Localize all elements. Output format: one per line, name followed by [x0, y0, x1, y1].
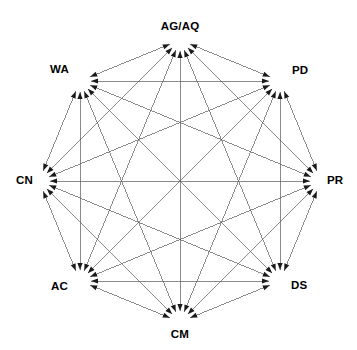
edge-arrowhead [262, 72, 269, 77]
edge-arrowhead [184, 304, 189, 311]
edge-arrowhead [284, 91, 289, 98]
edge-arrowhead [177, 304, 182, 311]
graph-edge [43, 191, 76, 271]
edge-arrowhead [271, 263, 276, 270]
edge-arrowhead [49, 172, 56, 177]
edge-arrowhead [90, 272, 97, 277]
graph-edge [43, 91, 76, 171]
edge-arrowhead [91, 278, 98, 283]
node-label-agaq[interactable]: AG/AQ [2, 21, 357, 33]
edge-arrowhead [90, 85, 97, 90]
node-label-ac[interactable]: AC [0, 281, 68, 293]
edge-arrowhead [84, 91, 89, 98]
edge-arrowhead [277, 92, 282, 99]
edge-arrowhead [303, 178, 310, 183]
graph-edge [90, 285, 170, 318]
node-label-ds[interactable]: DS [291, 280, 307, 292]
node-label-cm[interactable]: CM [2, 329, 357, 341]
edge-arrowhead [91, 78, 98, 83]
edge-arrowhead [262, 85, 269, 90]
graph-svg [0, 0, 357, 350]
edge-arrowhead [303, 172, 310, 177]
edge-arrowhead [84, 263, 89, 270]
node-label-pd[interactable]: PD [292, 65, 308, 77]
edge-arrowhead [77, 92, 82, 99]
node-label-wa[interactable]: WA [0, 64, 69, 76]
edge-arrowhead [50, 178, 57, 183]
edge-arrowhead [271, 91, 276, 98]
edge-arrowhead [162, 313, 169, 318]
edge-arrowhead [190, 44, 197, 49]
graph-edge [284, 91, 317, 171]
edge-arrowhead [184, 50, 189, 57]
edge-arrowhead [312, 163, 317, 170]
node-label-pr[interactable]: PR [327, 175, 343, 187]
graph-edge [190, 44, 270, 77]
edge-arrowhead [77, 263, 82, 270]
edge-arrowhead [71, 263, 76, 270]
edge-arrowhead [190, 313, 197, 318]
edge-arrowhead [71, 91, 76, 98]
edge-arrowhead [262, 272, 269, 277]
edge-arrowhead [284, 263, 289, 270]
edge-arrowhead [49, 185, 56, 190]
edge-arrowhead [171, 304, 176, 311]
edge-arrowhead [43, 191, 48, 198]
graph-edge [90, 44, 170, 77]
edge-arrowhead [90, 72, 97, 77]
edge-arrowhead [262, 278, 269, 283]
edge-layer [43, 44, 317, 318]
edge-arrowhead [303, 185, 310, 190]
edge-arrowhead [312, 191, 317, 198]
graph-edge [284, 191, 317, 271]
edge-arrowhead [171, 50, 176, 57]
node-label-cn[interactable]: CN [0, 175, 33, 187]
edge-arrowhead [90, 285, 97, 290]
edge-arrowhead [177, 51, 182, 58]
edge-arrowhead [277, 263, 282, 270]
edge-arrowhead [162, 44, 169, 49]
diagram-canvas: AG/AQPDPRDSCMACCNWA [0, 0, 357, 350]
graph-edge [190, 285, 270, 318]
edge-arrowhead [262, 78, 269, 83]
edge-arrowhead [262, 285, 269, 290]
edge-arrowhead [43, 163, 48, 170]
